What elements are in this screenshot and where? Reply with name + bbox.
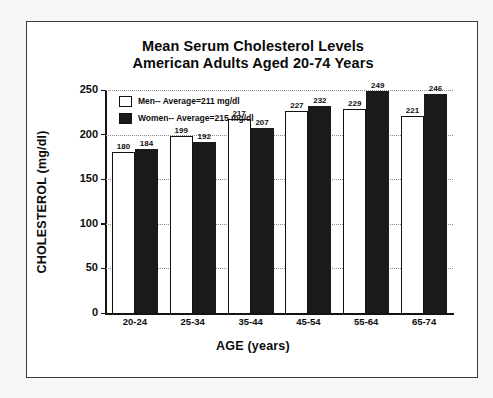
bar-value-label: 180 <box>117 142 130 151</box>
y-tick-label: 50 <box>86 261 98 273</box>
bar-women-55-64[interactable]: 249 <box>366 91 389 313</box>
bar-value-label: 232 <box>313 96 326 105</box>
x-tick-label: 35-44 <box>222 316 280 327</box>
y-tick-label: 100 <box>80 217 98 229</box>
x-tick-label: 25-34 <box>164 316 222 327</box>
bar-men-20-24[interactable]: 180 <box>112 152 135 313</box>
bar-group: 221246 <box>395 90 453 313</box>
bar-women-45-54[interactable]: 232 <box>308 106 331 313</box>
x-tick-label: 20-24 <box>106 316 164 327</box>
legend-swatch-men <box>119 96 132 107</box>
legend-swatch-women <box>119 113 132 124</box>
bar-women-65-74[interactable]: 246 <box>424 94 447 313</box>
bar-value-label: 246 <box>429 84 442 93</box>
bar-group: 229249 <box>337 90 395 313</box>
x-axis-tick-labels: 20-2425-3435-4445-5455-6465-74 <box>106 316 453 327</box>
bar-value-label: 184 <box>140 139 153 148</box>
y-axis-title: CHOLESTEROL (mg/dl) <box>33 90 51 313</box>
bar-men-35-44[interactable]: 217 <box>228 119 251 313</box>
bar-women-35-44[interactable]: 207 <box>251 128 274 313</box>
bar-value-label: 227 <box>290 101 303 110</box>
bar-women-20-24[interactable]: 184 <box>135 149 158 313</box>
bar-men-55-64[interactable]: 229 <box>343 109 366 313</box>
chart-frame: Mean Serum Cholesterol Levels American A… <box>26 21 478 378</box>
x-tick-label: 45-54 <box>279 316 337 327</box>
chart-title: Mean Serum Cholesterol Levels American A… <box>27 38 479 72</box>
legend-item-women: Women-- Average=215 mg/dl <box>119 111 254 125</box>
bar-value-label: 249 <box>371 81 384 90</box>
bar-men-25-34[interactable]: 199 <box>170 136 193 314</box>
x-tick-label: 65-74 <box>395 316 453 327</box>
bar-group: 227232 <box>279 90 337 313</box>
bar-value-label: 192 <box>198 132 211 141</box>
y-tick-label: 150 <box>80 172 98 184</box>
bar-men-45-54[interactable]: 227 <box>285 111 308 313</box>
bar-women-25-34[interactable]: 192 <box>193 142 216 313</box>
bar-value-label: 229 <box>348 99 361 108</box>
legend-label-women: Women-- Average=215 mg/dl <box>138 113 254 123</box>
chart-title-line1: Mean Serum Cholesterol Levels <box>142 38 364 54</box>
legend-item-men: Men-- Average=211 mg/dl <box>119 94 254 108</box>
x-tick-label: 55-64 <box>337 316 395 327</box>
y-tick-label: 250 <box>80 83 98 95</box>
chart-legend: Men-- Average=211 mg/dl Women-- Average=… <box>119 94 254 128</box>
chart-page: Mean Serum Cholesterol Levels American A… <box>0 0 493 398</box>
y-tick-label: 200 <box>80 128 98 140</box>
bar-value-label: 207 <box>255 118 268 127</box>
x-axis-line <box>105 313 454 315</box>
chart-title-line2: American Adults Aged 20-74 Years <box>27 55 479 72</box>
x-axis-title: AGE (years) <box>27 339 479 353</box>
bar-value-label: 221 <box>406 106 419 115</box>
y-tick-label: 0 <box>92 306 98 318</box>
bar-men-65-74[interactable]: 221 <box>401 116 424 313</box>
legend-label-men: Men-- Average=211 mg/dl <box>138 96 240 106</box>
